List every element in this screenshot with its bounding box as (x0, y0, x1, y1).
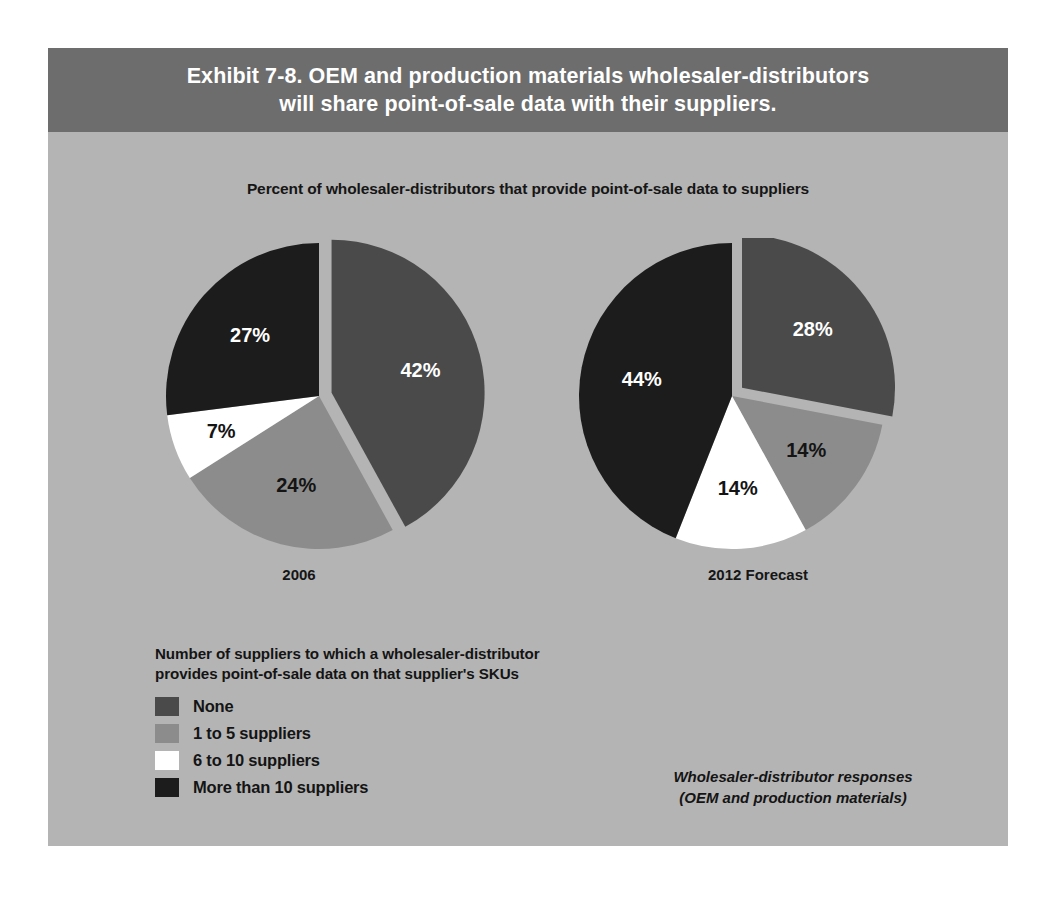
legend-item-1-to-5-suppliers: 1 to 5 suppliers (155, 720, 675, 747)
legend-swatch-6-to-10-suppliers (155, 751, 179, 770)
legend-label-6-to-10-suppliers: 6 to 10 suppliers (193, 751, 320, 770)
pie-slice-label: 44% (622, 368, 662, 390)
pie-slice-label: 14% (786, 439, 826, 461)
legend-label-none: None (193, 697, 233, 716)
pie-slice-label: 24% (276, 474, 316, 496)
legend-title: Number of suppliers to which a wholesale… (155, 644, 675, 684)
legend-swatch-1-to-5-suppliers (155, 724, 179, 743)
source-note-line-1: Wholesaler-distributor responses (593, 766, 993, 787)
legend-item-none: None (155, 693, 675, 720)
exhibit-title-line-1: Exhibit 7-8. OEM and production material… (187, 62, 870, 90)
source-note-line-2: (OEM and production materials) (593, 787, 993, 808)
pie-slice-label: 27% (230, 324, 270, 346)
legend-swatch-more-than-10-suppliers (155, 778, 179, 797)
legend-label-more-than-10-suppliers: More than 10 suppliers (193, 778, 368, 797)
exhibit-title: Exhibit 7-8. OEM and production material… (187, 62, 870, 118)
pie-caption-2006: 2006 (99, 566, 499, 583)
pie-slice-label: 7% (207, 420, 236, 442)
legend-swatch-none (155, 697, 179, 716)
pie-slice-label: 42% (400, 359, 440, 381)
pie-chart-2012-forecast: 28%14%14%44% 2012 Forecast (536, 238, 936, 598)
legend-title-line-1: Number of suppliers to which a wholesale… (155, 644, 675, 664)
chart-subtitle: Percent of wholesaler-distributors that … (48, 180, 1008, 198)
exhibit-title-band: Exhibit 7-8. OEM and production material… (48, 48, 1008, 132)
legend-label-1-to-5-suppliers: 1 to 5 suppliers (193, 724, 311, 743)
exhibit-title-line-2: will share point-of-sale data with their… (187, 90, 870, 118)
pie-slice-label: 14% (718, 477, 758, 499)
pie-svg-2012-forecast: 28%14%14%44% (536, 238, 936, 568)
source-note: Wholesaler-distributor responses (OEM an… (593, 766, 993, 808)
pie-chart-2006: 42%24%7%27% 2006 (123, 238, 523, 598)
legend-title-line-2: provides point-of-sale data on that supp… (155, 664, 675, 684)
pie-svg-2006: 42%24%7%27% (123, 238, 523, 568)
exhibit-panel: Exhibit 7-8. OEM and production material… (48, 48, 1008, 846)
pie-slice-label: 28% (793, 318, 833, 340)
pie-caption-2012-forecast: 2012 Forecast (558, 566, 958, 583)
